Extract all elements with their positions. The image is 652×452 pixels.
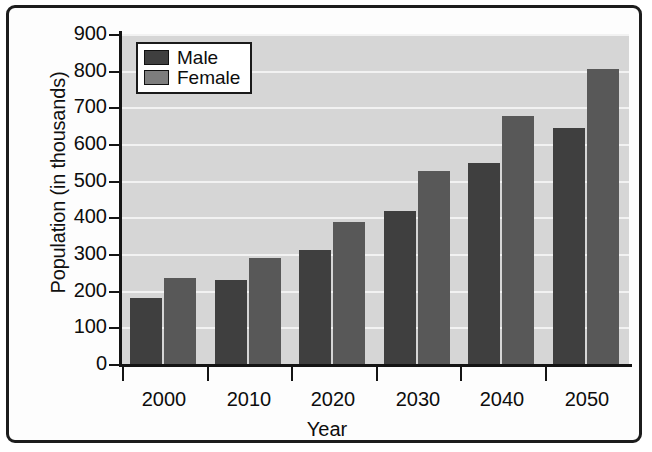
gridline [122,34,629,36]
bar-female-2020 [333,222,365,364]
x-tick-mark [291,367,293,381]
bar-female-2050 [587,69,619,364]
bar-female-2040 [502,116,534,364]
bar-male-2030 [384,211,416,364]
x-tick-label: 2010 [201,388,297,411]
bar-female-2010 [249,258,281,364]
bar-female-2030 [418,171,450,364]
y-tick-mark [109,107,119,109]
y-tick-mark [109,254,119,256]
y-tick-mark [109,71,119,73]
legend-swatch-female-icon [144,70,169,85]
y-axis-line [119,31,122,367]
y-tick-mark [109,144,119,146]
x-axis-title: Year [9,418,645,441]
x-tick-mark [460,367,462,381]
x-tick-mark [545,367,547,381]
legend-swatch-male-icon [144,50,169,65]
legend-item-male: Male [144,48,240,67]
bar-female-2000 [164,278,196,364]
y-tick-mark [109,327,119,329]
y-tick-label: 200 [49,279,107,302]
y-tick-label: 500 [49,169,107,192]
bar-male-2040 [468,163,500,364]
y-tick-label: 600 [49,132,107,155]
y-tick-label: 900 [49,22,107,45]
chart-legend: Male Female [136,42,252,94]
y-tick-label: 0 [49,352,107,375]
x-tick-label: 2040 [454,388,550,411]
legend-item-female: Female [144,68,240,87]
bar-male-2020 [299,250,331,364]
bar-male-2050 [553,128,585,365]
y-tick-mark [109,364,119,366]
x-tick-label: 2020 [285,388,381,411]
x-tick-label: 2000 [116,388,212,411]
y-tick-mark [109,34,119,36]
x-tick-label: 2050 [539,388,635,411]
y-tick-label: 400 [49,205,107,228]
gridline [122,107,629,109]
legend-label-male: Male [177,48,218,67]
x-tick-mark [122,367,124,381]
y-tick-label: 800 [49,59,107,82]
bar-male-2000 [130,298,162,364]
y-tick-label: 700 [49,95,107,118]
x-tick-label: 2030 [370,388,466,411]
y-tick-label: 300 [49,242,107,265]
figure-frame: Population (in thousands) 01002003004005… [6,5,642,443]
y-tick-mark [109,291,119,293]
y-tick-label: 100 [49,315,107,338]
y-tick-mark [109,217,119,219]
x-tick-mark [376,367,378,381]
x-tick-mark [207,367,209,381]
y-tick-mark [109,181,119,183]
legend-label-female: Female [177,68,240,87]
bar-male-2010 [215,280,247,364]
